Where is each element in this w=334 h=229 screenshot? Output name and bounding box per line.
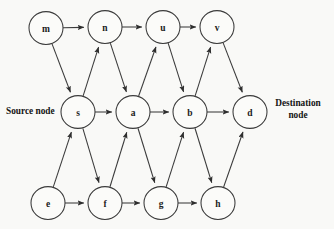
node-b[interactable]: b [173,96,207,129]
annotations-layer: Source node Destination node [6,98,322,120]
node-e[interactable]: e [31,187,65,220]
edge-h-to-d [224,132,243,187]
node-label-m: m [42,24,50,34]
node-n[interactable]: n [88,11,122,44]
edge-v-to-d [223,43,242,92]
node-label-s: s [76,108,80,118]
edge-u-to-b [168,43,183,92]
edge-b-to-h [195,128,212,182]
node-label-d: d [247,108,253,118]
node-label-a: a [131,108,136,118]
edge-g-to-b [166,132,183,187]
node-f[interactable]: f [88,187,122,220]
source-node-label: Source node [6,106,55,116]
node-s[interactable]: s [61,96,95,129]
node-label-v: v [215,23,220,33]
edge-m-to-s [52,44,70,92]
edge-b-to-v [195,47,210,96]
node-g[interactable]: g [144,187,178,220]
destination-node-label-line1: Destination [275,98,321,108]
edge-f-to-a [110,132,127,186]
node-a[interactable]: a [116,96,150,129]
node-m[interactable]: m [29,12,63,45]
destination-node-label-line2: node [288,110,307,120]
edge-e-to-s [53,132,71,187]
edge-s-to-f [83,128,99,182]
nodes-layer: mnuvsabdefgh [29,11,267,220]
edge-n-to-a [110,43,126,92]
edge-a-to-g [138,128,155,182]
node-label-g: g [159,199,164,209]
edge-a-to-u [139,47,156,96]
edge-s-to-n [83,47,98,96]
node-d[interactable]: d [233,96,267,129]
node-label-n: n [102,23,108,33]
node-v[interactable]: v [200,11,234,44]
node-label-u: u [160,23,166,33]
graph-diagram: mnuvsabdefgh Source node Destination nod… [0,0,334,229]
node-label-e: e [46,199,50,209]
node-label-b: b [187,108,192,118]
node-u[interactable]: u [146,11,180,44]
node-label-h: h [215,199,221,209]
node-h[interactable]: h [201,187,235,220]
